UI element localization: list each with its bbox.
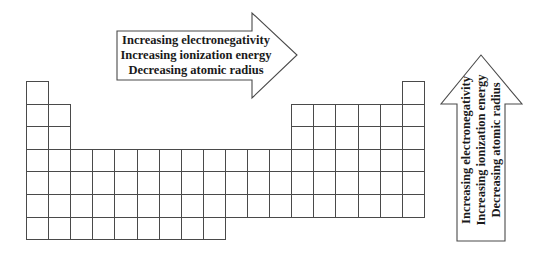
element-cell bbox=[313, 126, 336, 150]
element-cell bbox=[313, 149, 336, 172]
element-cell bbox=[48, 171, 71, 195]
element-cell bbox=[92, 217, 115, 240]
element-cell bbox=[159, 171, 182, 195]
element-cell bbox=[203, 149, 226, 172]
element-cell bbox=[159, 194, 182, 218]
element-cell bbox=[313, 194, 336, 218]
element-cell bbox=[181, 171, 204, 195]
vertical-arrow-label: Increasing electronegativity Increasing … bbox=[459, 57, 504, 243]
element-cell bbox=[335, 149, 359, 172]
element-cell bbox=[70, 194, 93, 218]
element-cell bbox=[247, 171, 270, 195]
element-cell bbox=[137, 217, 160, 240]
element-cell bbox=[181, 194, 204, 218]
element-cell bbox=[26, 194, 49, 218]
element-cell bbox=[291, 126, 314, 150]
element-cell bbox=[70, 217, 93, 240]
element-cell bbox=[70, 149, 93, 172]
element-cell bbox=[269, 149, 292, 172]
element-cell bbox=[203, 194, 226, 218]
element-cell bbox=[402, 104, 425, 127]
element-cell bbox=[380, 104, 403, 127]
element-cell bbox=[358, 171, 381, 195]
v-label-line-1: Increasing electronegativity bbox=[459, 57, 474, 243]
element-cell bbox=[181, 217, 204, 240]
element-cell bbox=[26, 149, 49, 172]
element-cell bbox=[203, 217, 226, 240]
element-cell bbox=[225, 171, 248, 195]
element-cell bbox=[358, 149, 381, 172]
periodic-trends-diagram: Increasing electronegativity Increasing … bbox=[0, 0, 548, 257]
element-cell bbox=[26, 217, 49, 240]
element-cell bbox=[247, 194, 270, 218]
element-cell bbox=[225, 194, 248, 218]
element-cell bbox=[247, 149, 270, 172]
element-cell bbox=[48, 149, 71, 172]
element-cell bbox=[291, 104, 314, 127]
element-cell bbox=[159, 217, 182, 240]
element-cell bbox=[269, 194, 292, 218]
element-cell bbox=[225, 149, 248, 172]
element-cell bbox=[48, 104, 71, 127]
element-cell bbox=[137, 149, 160, 172]
element-cell bbox=[26, 104, 49, 127]
element-cell bbox=[402, 81, 425, 105]
element-cell bbox=[291, 149, 314, 172]
element-cell bbox=[335, 194, 359, 218]
v-label-line-2: Increasing ionization energy bbox=[474, 57, 489, 243]
v-label-line-3: Decreasing atomic radius bbox=[489, 57, 504, 243]
element-cell bbox=[380, 194, 403, 218]
element-cell bbox=[114, 149, 138, 172]
element-cell bbox=[358, 104, 381, 127]
element-cell bbox=[313, 171, 336, 195]
element-cell bbox=[26, 126, 49, 150]
element-cell bbox=[70, 171, 93, 195]
h-label-line-3: Decreasing atomic radius bbox=[117, 63, 275, 78]
element-cell bbox=[181, 149, 204, 172]
element-cell bbox=[402, 149, 425, 172]
element-cell bbox=[92, 171, 115, 195]
element-cell bbox=[402, 126, 425, 150]
element-cell bbox=[48, 126, 71, 150]
element-cell bbox=[380, 126, 403, 150]
element-cell bbox=[203, 171, 226, 195]
element-cell bbox=[380, 149, 403, 172]
element-cell bbox=[269, 171, 292, 195]
element-cell bbox=[335, 171, 359, 195]
element-cell bbox=[335, 104, 359, 127]
element-cell bbox=[48, 217, 71, 240]
horizontal-arrow-label: Increasing electronegativity Increasing … bbox=[117, 33, 275, 78]
element-cell bbox=[358, 194, 381, 218]
element-cell bbox=[291, 171, 314, 195]
element-cell bbox=[92, 149, 115, 172]
element-cell bbox=[92, 194, 115, 218]
element-cell bbox=[114, 171, 138, 195]
element-cell bbox=[137, 171, 160, 195]
element-cell bbox=[26, 81, 49, 105]
h-label-line-1: Increasing electronegativity bbox=[117, 33, 275, 48]
element-cell bbox=[48, 194, 71, 218]
element-cell bbox=[402, 171, 425, 195]
h-label-line-2: Increasing ionization energy bbox=[117, 48, 275, 63]
element-cell bbox=[114, 194, 138, 218]
element-cell bbox=[313, 104, 336, 127]
element-cell bbox=[291, 194, 314, 218]
element-cell bbox=[26, 171, 49, 195]
element-cell bbox=[114, 217, 138, 240]
element-cell bbox=[335, 126, 359, 150]
element-cell bbox=[159, 149, 182, 172]
element-cell bbox=[358, 126, 381, 150]
element-cell bbox=[380, 171, 403, 195]
element-cell bbox=[137, 194, 160, 218]
element-cell bbox=[402, 194, 425, 218]
